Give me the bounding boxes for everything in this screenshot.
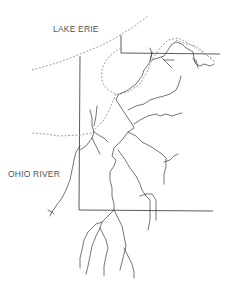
ohio-river-label: OHIO RIVER	[8, 169, 60, 179]
lake-erie-label: LAKE ERIE	[53, 24, 99, 34]
state-border-north	[121, 35, 220, 54]
watershed-divide-east	[176, 40, 216, 62]
upper-tributary-spur-1	[162, 58, 172, 68]
lower-tributary	[134, 113, 182, 124]
river-basin-map	[0, 0, 229, 287]
south-branch-fork	[100, 228, 108, 276]
lower-tributary-2	[128, 132, 166, 184]
west-headwater	[80, 110, 94, 150]
south-branch-west	[80, 222, 102, 268]
state-border-west	[79, 56, 213, 211]
ohio-river	[52, 146, 80, 212]
south-branch-east-fork	[124, 248, 134, 278]
south-branch-east	[114, 210, 126, 270]
west-headwater-fork	[94, 106, 97, 126]
watershed-divide-south	[32, 94, 116, 136]
west-headwater-east	[94, 132, 108, 142]
mid-east-tributary	[118, 150, 150, 230]
upper-tributary-east	[152, 42, 195, 62]
west-headwater-south	[92, 138, 100, 154]
main-river	[110, 52, 152, 210]
watershed-divide	[102, 38, 212, 94]
middle-tributary	[128, 76, 181, 110]
south-branch-main	[86, 210, 114, 274]
